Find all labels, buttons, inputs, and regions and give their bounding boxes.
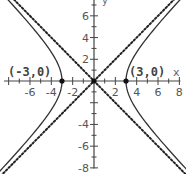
y-axis-label: y: [102, 0, 108, 6]
y-tick-label: -4: [78, 118, 89, 131]
point-marker: [91, 78, 96, 83]
y-tick-label: 4: [82, 32, 89, 45]
y-tick-label: 6: [82, 10, 89, 23]
x-tick-label: -6: [24, 86, 35, 99]
hyperbola-chart: -6-4-22468642-4-6-8 (-3,0) (3,0) x y: [0, 0, 186, 174]
x-tick-label: 2: [112, 86, 119, 99]
y-tick-label: -6: [78, 140, 89, 153]
x-axis-label: x: [173, 66, 180, 79]
x-tick-label: 6: [155, 86, 162, 99]
right-vertex-label: (3,0): [129, 65, 165, 79]
y-tick-label: -8: [78, 162, 89, 174]
point-marker: [59, 78, 64, 83]
x-tick-label: 4: [133, 86, 140, 99]
x-tick-label: 8: [176, 86, 183, 99]
x-tick-label: -4: [46, 86, 57, 99]
x-tick-label: -2: [67, 86, 78, 99]
point-marker: [123, 78, 128, 83]
y-tick-label: 2: [82, 53, 89, 66]
left-vertex-label: (-3,0): [8, 65, 51, 79]
